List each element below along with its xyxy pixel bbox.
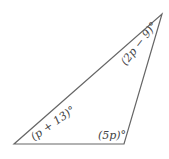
angle-label-bottom-right: (5p)° bbox=[98, 129, 126, 142]
triangle-diagram: (p + 13)° (5p)° (2p − 9)° bbox=[0, 0, 169, 159]
